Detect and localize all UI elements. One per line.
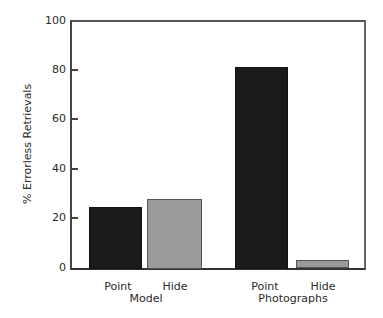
x-group-label-photographs: Photographs (253, 293, 333, 305)
bar-photographs-point (235, 67, 288, 269)
y-tick-label-40: 40 (42, 163, 66, 175)
y-tick-label-100: 100 (42, 15, 66, 27)
bar-chart: 0 20 40 60 80 100 % Errorless Retrievals… (0, 0, 383, 318)
y-tick-40 (72, 168, 78, 170)
y-tick-80 (72, 69, 78, 71)
y-tick-label-60: 60 (42, 113, 66, 125)
x-group-label-model: Model (121, 293, 171, 305)
y-tick-label-0: 0 (42, 262, 66, 274)
y-tick-label-20: 20 (42, 212, 66, 224)
y-tick-label-80: 80 (42, 64, 66, 76)
y-tick-20 (72, 217, 78, 219)
y-tick-60 (72, 118, 78, 120)
bar-model-hide (147, 199, 202, 269)
y-axis-label: % Errorless Retrievals (22, 84, 34, 204)
bar-model-point (89, 207, 142, 269)
bar-photographs-hide (296, 260, 349, 268)
